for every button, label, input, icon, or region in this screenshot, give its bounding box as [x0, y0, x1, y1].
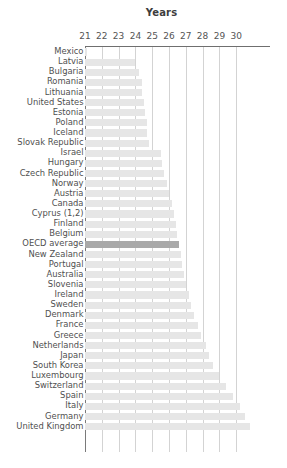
category-label-australia: Australia: [46, 269, 83, 280]
category-label-iceland: Iceland: [53, 127, 83, 138]
bar-row: Portugal: [0, 260, 287, 270]
bar: [85, 210, 174, 217]
bar-row: Australia: [0, 270, 287, 280]
horizontal-bar-chart: Years 21222324252627282930 MexicoLatviaB…: [0, 0, 287, 468]
bar: [85, 423, 250, 430]
bar-row: Slovak Republic: [0, 138, 287, 148]
x-tick-label-24: 24: [130, 31, 141, 41]
bar-row: Mexico: [0, 47, 287, 57]
category-label-germany: Germany: [45, 411, 84, 422]
bar: [85, 403, 240, 410]
category-label-denmark: Denmark: [45, 309, 84, 320]
bar-row: Poland: [0, 118, 287, 128]
bar-row: Norway: [0, 179, 287, 189]
x-tick-label-22: 22: [96, 31, 107, 41]
bar-row: New Zealand: [0, 250, 287, 260]
x-tick-label-26: 26: [163, 31, 174, 41]
x-tick-label-28: 28: [197, 31, 208, 41]
bar-row: Czech Republic: [0, 169, 287, 179]
bar: [85, 281, 186, 288]
bar: [85, 79, 142, 86]
bar-row: Israel: [0, 148, 287, 158]
category-label-slovenia: Slovenia: [48, 279, 84, 290]
bar: [85, 231, 177, 238]
bar: [85, 89, 142, 96]
x-tick-label-27: 27: [180, 31, 191, 41]
bar: [85, 332, 201, 339]
category-label-luxembourg: Luxembourg: [31, 370, 83, 381]
category-label-france: France: [56, 319, 84, 330]
x-tick-label-29: 29: [214, 31, 225, 41]
category-label-italy: Italy: [65, 400, 83, 411]
category-label-hungary: Hungary: [48, 157, 84, 168]
category-label-spain: Spain: [60, 390, 83, 401]
category-label-czech-republic: Czech Republic: [20, 168, 84, 179]
category-label-poland: Poland: [56, 117, 84, 128]
bar: [85, 241, 179, 248]
category-label-new-zealand: New Zealand: [28, 249, 83, 260]
bar: [85, 393, 233, 400]
bar: [85, 302, 191, 309]
bar-row: Bulgaria: [0, 67, 287, 77]
bar-row: Romania: [0, 77, 287, 87]
category-label-south-korea: South Korea: [33, 360, 84, 371]
bar: [85, 413, 245, 420]
bar: [85, 119, 147, 126]
bar-row: Finland: [0, 219, 287, 229]
bar: [85, 362, 213, 369]
bar: [85, 99, 144, 106]
category-label-japan: Japan: [60, 350, 83, 361]
bar: [85, 170, 164, 177]
category-label-canada: Canada: [52, 198, 84, 209]
bar: [85, 352, 209, 359]
category-label-cyprus-1-2: Cyprus (1,2): [32, 208, 84, 219]
category-label-switzerland: Switzerland: [35, 380, 84, 391]
category-label-sweden: Sweden: [50, 299, 83, 310]
bar: [85, 372, 219, 379]
bar-row: United Kingdom: [0, 422, 287, 432]
category-label-bulgaria: Bulgaria: [49, 66, 84, 77]
bar-row: Austria: [0, 189, 287, 199]
category-label-united-kingdom: United Kingdom: [16, 421, 83, 432]
bar: [85, 312, 194, 319]
bar: [85, 342, 206, 349]
bar-rows: MexicoLatviaBulgariaRomaniaLithuaniaUnit…: [0, 47, 287, 452]
bar-row: Switzerland: [0, 381, 287, 391]
bar-row: Ireland: [0, 290, 287, 300]
bar: [85, 180, 167, 187]
bar: [85, 200, 172, 207]
category-label-romania: Romania: [47, 76, 84, 87]
category-label-norway: Norway: [52, 178, 84, 189]
bar: [85, 48, 87, 55]
bar-row: Sweden: [0, 300, 287, 310]
category-label-oecd-average: OECD average: [22, 238, 83, 249]
chart-title: Years: [0, 7, 287, 18]
bar: [85, 190, 169, 197]
bar: [85, 59, 135, 66]
bar-row: United States: [0, 98, 287, 108]
bar: [85, 69, 139, 76]
category-label-latvia: Latvia: [58, 56, 84, 67]
bar: [85, 221, 176, 228]
x-tick-label-30: 30: [230, 31, 241, 41]
bar: [85, 383, 226, 390]
bar-row: Slovenia: [0, 280, 287, 290]
bar-row: France: [0, 320, 287, 330]
category-label-estonia: Estonia: [53, 107, 84, 118]
bar-row: Spain: [0, 391, 287, 401]
x-tick-label-23: 23: [113, 31, 124, 41]
category-label-united-states: United States: [27, 97, 84, 108]
category-label-ireland: Ireland: [55, 289, 84, 300]
bar: [85, 251, 181, 258]
bar: [85, 150, 161, 157]
bar-row: Italy: [0, 401, 287, 411]
category-label-israel: Israel: [61, 147, 84, 158]
category-label-slovak-republic: Slovak Republic: [17, 137, 83, 148]
bar-row: Cyprus (1,2): [0, 209, 287, 219]
category-label-belgium: Belgium: [49, 228, 83, 239]
category-label-mexico: Mexico: [54, 46, 83, 57]
category-label-portugal: Portugal: [49, 259, 84, 270]
category-label-finland: Finland: [54, 218, 84, 229]
category-label-greece: Greece: [54, 330, 84, 341]
bar-row: Denmark: [0, 310, 287, 320]
